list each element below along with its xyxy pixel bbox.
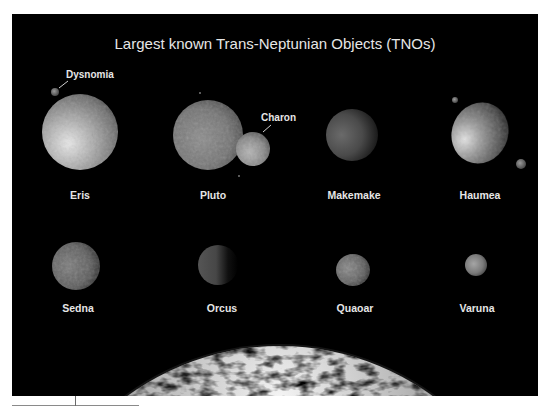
object-eris: Dysnomia Eris <box>42 69 118 201</box>
diagram-title: Largest known Trans-Neptunian Objects (T… <box>115 35 436 52</box>
object-label-quaoar: Quaoar <box>337 302 374 314</box>
haumea-moon-namaka <box>516 159 526 169</box>
object-quaoar: Quaoar <box>336 254 373 314</box>
object-label-varuna: Varuna <box>459 302 494 314</box>
object-varuna: Varuna <box>459 254 494 314</box>
tno-scene: Largest known Trans-Neptunian Objects (T… <box>12 14 538 396</box>
haumea-moon-hiiaka <box>452 97 458 103</box>
object-label-pluto: Pluto <box>200 189 226 201</box>
quaoar-texture <box>336 254 370 286</box>
dysnomia-moon <box>51 88 59 96</box>
object-label-haumea: Haumea <box>460 189 501 201</box>
moon-label-charon: Charon <box>261 112 296 123</box>
object-orcus: Orcus <box>198 245 238 314</box>
moon-label-dysnomia: Dysnomia <box>66 69 114 80</box>
charon-leader-line <box>263 125 271 132</box>
object-label-orcus: Orcus <box>207 302 238 314</box>
scale-tick <box>75 396 76 406</box>
haumea-texture <box>442 93 519 173</box>
object-makemake: Makemake <box>326 109 381 201</box>
object-pluto: Charon Pluto <box>173 100 296 201</box>
object-label-makemake: Makemake <box>327 189 380 201</box>
object-sedna: Sedna <box>52 242 100 314</box>
pluto-texture <box>173 100 243 170</box>
earth-limb <box>20 344 538 396</box>
object-label-eris: Eris <box>70 189 90 201</box>
sedna-texture <box>52 242 100 290</box>
earth-clouds <box>22 344 538 396</box>
charon-texture <box>236 132 270 166</box>
orcus-body <box>198 245 238 285</box>
object-haumea: Haumea <box>442 93 526 201</box>
eris-texture <box>42 94 118 170</box>
star <box>199 92 201 94</box>
object-label-sedna: Sedna <box>62 302 94 314</box>
makemake-body <box>326 109 378 161</box>
varuna-body <box>465 254 487 276</box>
tno-illustration-panel: Largest known Trans-Neptunian Objects (T… <box>12 14 538 396</box>
dysnomia-leader-line <box>59 81 68 88</box>
star <box>238 175 240 177</box>
